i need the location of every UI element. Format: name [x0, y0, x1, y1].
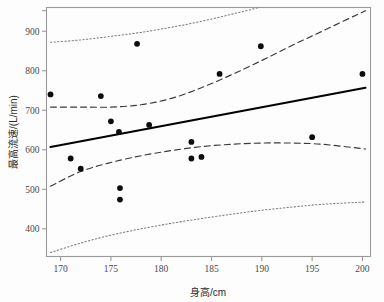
data-point — [116, 129, 122, 135]
x-tick-label: 200 — [355, 264, 370, 274]
data-point — [258, 43, 264, 49]
x-tick-label: 175 — [104, 264, 119, 274]
x-axis-title: 身高/cm — [190, 286, 226, 298]
data-point — [98, 93, 104, 99]
data-point — [188, 139, 194, 145]
x-tick-label: 180 — [154, 264, 169, 274]
data-point — [108, 118, 114, 124]
y-axis-title: 最高流速/(L/min) — [7, 95, 19, 169]
data-point — [48, 92, 54, 98]
data-point — [217, 71, 223, 77]
data-point — [68, 156, 74, 162]
data-point — [146, 122, 152, 128]
y-tick-label: 600 — [25, 145, 40, 155]
y-tick-label: 400 — [25, 224, 40, 234]
x-tick-label: 195 — [305, 264, 320, 274]
chart-figure: 170175180185190195200400500600700800900 … — [0, 0, 384, 302]
x-tick-label: 190 — [255, 264, 270, 274]
data-point — [188, 156, 194, 162]
data-point — [78, 166, 84, 172]
y-tick-label: 500 — [25, 185, 40, 195]
data-point — [117, 197, 123, 203]
data-point — [199, 154, 205, 160]
data-point — [117, 185, 123, 191]
data-point — [309, 134, 315, 140]
y-tick-label: 800 — [25, 66, 40, 76]
y-tick-label: 700 — [25, 106, 40, 116]
scatter-plot-canvas: 170175180185190195200400500600700800900 … — [0, 0, 384, 302]
x-tick-label: 170 — [53, 264, 68, 274]
data-point — [360, 71, 366, 77]
x-tick-label: 185 — [204, 264, 219, 274]
y-tick-label: 900 — [25, 27, 40, 37]
data-point — [134, 41, 140, 47]
